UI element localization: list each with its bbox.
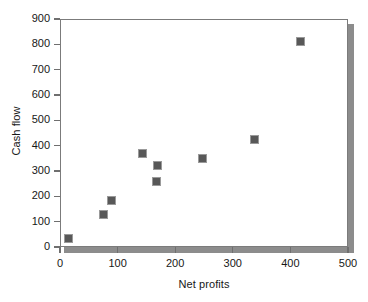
scatter-chart: Cash flow Net profits 010020030040050060… <box>0 0 368 302</box>
y-tick <box>54 44 60 45</box>
data-point <box>250 135 259 144</box>
data-point <box>198 154 207 163</box>
y-axis-label: Cash flow <box>10 16 28 246</box>
y-tick-label: 800 <box>10 38 50 49</box>
y-tick <box>54 145 60 146</box>
x-tick <box>175 247 176 253</box>
y-tick-label: 100 <box>10 216 50 227</box>
x-tick-label: 300 <box>213 258 253 269</box>
y-tick <box>54 221 60 222</box>
y-tick <box>54 196 60 197</box>
y-tick-label: 900 <box>10 13 50 24</box>
y-tick-label: 500 <box>10 114 50 125</box>
y-tick-label: 700 <box>10 64 50 75</box>
data-point <box>152 177 161 186</box>
y-tick <box>54 170 60 171</box>
y-tick <box>54 69 60 70</box>
data-point <box>296 37 305 46</box>
data-point <box>138 149 147 158</box>
y-tick-label: 0 <box>10 241 50 252</box>
x-tick <box>347 247 348 253</box>
x-tick-label: 100 <box>98 258 138 269</box>
y-tick-label: 200 <box>10 190 50 201</box>
x-tick <box>117 247 118 253</box>
x-axis-label: Net profits <box>60 278 348 290</box>
data-point <box>153 161 162 170</box>
y-tick-label: 600 <box>10 89 50 100</box>
x-tick <box>59 247 60 253</box>
y-tick-label: 400 <box>10 140 50 151</box>
frame-shadow-right <box>348 24 354 253</box>
x-tick-label: 400 <box>270 258 310 269</box>
y-tick <box>54 94 60 95</box>
x-tick-label: 500 <box>328 258 368 269</box>
y-tick <box>54 120 60 121</box>
x-tick-label: 0 <box>40 258 80 269</box>
x-tick <box>232 247 233 253</box>
data-point <box>107 196 116 205</box>
x-tick-label: 200 <box>155 258 195 269</box>
data-point <box>64 234 73 243</box>
frame-shadow-bottom <box>64 247 354 253</box>
data-point <box>99 210 108 219</box>
x-tick <box>290 247 291 253</box>
y-tick-label: 300 <box>10 165 50 176</box>
y-tick <box>54 18 60 19</box>
